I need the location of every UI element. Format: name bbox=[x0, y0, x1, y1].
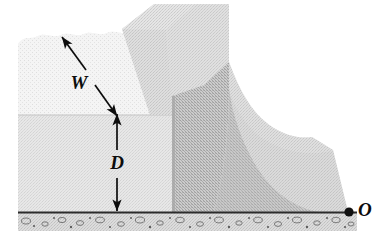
dam-diagram-canvas: W D O bbox=[0, 0, 372, 234]
dam-upstream-face bbox=[172, 96, 175, 212]
width-label: W bbox=[71, 72, 89, 93]
water-lower-band-texture bbox=[18, 115, 172, 212]
origin-label: O bbox=[358, 199, 372, 220]
depth-label: D bbox=[109, 152, 124, 173]
riverbed-ground bbox=[18, 212, 357, 231]
spillway-slope bbox=[214, 62, 348, 212]
dam-diagram-figure: W D O bbox=[0, 0, 372, 234]
origin-dot bbox=[344, 207, 353, 216]
ground-fill-texture bbox=[18, 212, 357, 231]
